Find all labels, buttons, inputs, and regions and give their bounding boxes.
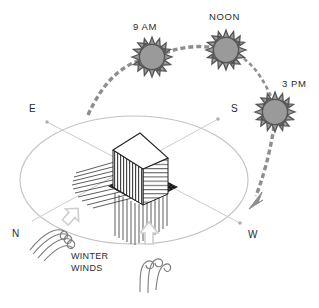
winter-winds-label-line2: WINDS (71, 263, 103, 274)
sun-label-9am: 9 AM (133, 21, 157, 32)
sun-path-segment-sunset (256, 126, 274, 196)
sun-icon-9am (132, 37, 172, 77)
wind-arrow-north (59, 202, 85, 228)
node-west (238, 221, 242, 225)
winter-winds-label-line1: WINTER (71, 251, 108, 262)
diagram-svg (0, 0, 319, 308)
compass-label-west: W (248, 229, 258, 240)
diagram-canvas: 9 AM NOON 3 PM E S W N WINTER WINDS (0, 0, 319, 308)
compass-label-east: E (29, 103, 36, 114)
node-east (45, 120, 49, 124)
compass-label-north: N (12, 228, 20, 239)
wind-swirl-north (30, 230, 75, 261)
sun-icon-3pm (255, 92, 295, 132)
compass-label-south: S (231, 103, 238, 114)
sun-label-noon: NOON (209, 11, 240, 22)
node-south (216, 117, 220, 121)
sun-path-arrowhead (249, 192, 263, 209)
sun-icon-noon (206, 30, 246, 70)
wind-swirl-south (140, 259, 171, 293)
sun-label-3pm: 3 PM (282, 78, 307, 89)
